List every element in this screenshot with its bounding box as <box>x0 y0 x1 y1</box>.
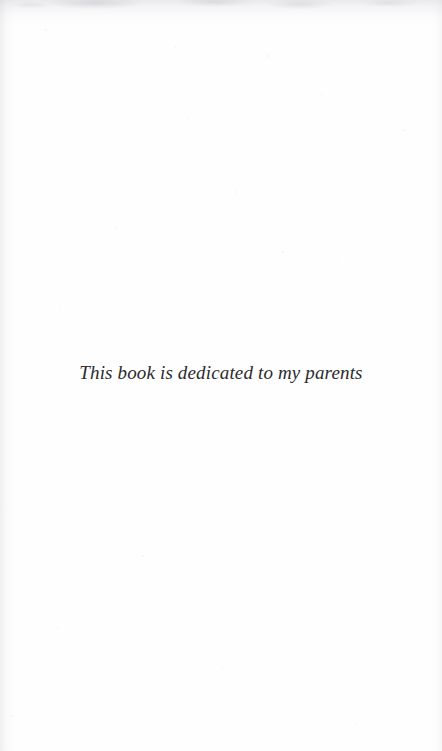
dedication-text: This book is dedicated to my parents <box>79 362 362 384</box>
book-page: This book is dedicated to my parents <box>0 0 442 751</box>
dedication-block: This book is dedicated to my parents <box>0 362 442 384</box>
